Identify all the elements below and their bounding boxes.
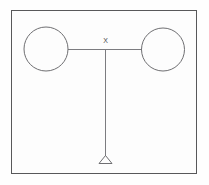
diagram-svg: X [0, 0, 209, 185]
figure-border [12, 11, 197, 174]
junction-label: X [103, 37, 108, 44]
diagram-canvas: X [0, 0, 209, 185]
